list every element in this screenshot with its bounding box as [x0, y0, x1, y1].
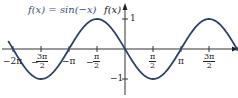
x-tick-label-neg-3pi-2: 3π 2 [36, 53, 48, 70]
sine-chart: f(x) = sin(−x) f(x) 1 −1 −2π − 3π 2 −π −… [0, 0, 238, 98]
x-tick-label-neg-pi: −π [62, 57, 75, 66]
y-axis-label: f(x) [104, 4, 121, 15]
x-tick-label-pi-2: π 2 [149, 53, 156, 70]
x-tick-label-neg-2pi: −2π [3, 57, 22, 66]
x-tick-label-3pi-2: 3π 2 [203, 53, 215, 70]
chart-title: f(x) = sin(−x) [28, 4, 96, 15]
x-tick-label-pi: π [178, 57, 184, 66]
y-tick-label-neg-1: −1 [110, 74, 123, 83]
y-tick-label-1: 1 [130, 14, 136, 23]
y-axis-arrow-icon [123, 3, 128, 10]
x-tick-label-neg-pi-2: π 2 [93, 53, 100, 70]
